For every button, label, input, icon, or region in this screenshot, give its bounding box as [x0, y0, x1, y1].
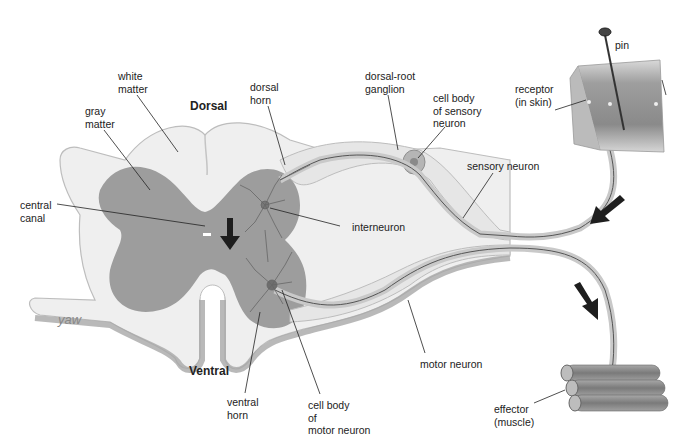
- label-cell-body-motor-neuron: cell body of motor neuron: [308, 399, 370, 437]
- label-ventral: Ventral: [189, 365, 229, 378]
- label-dorsal-root-ganglion: dorsal-root ganglion: [365, 70, 415, 95]
- label-interneuron: interneuron: [352, 221, 405, 234]
- label-gray-matter: gray matter: [85, 105, 115, 130]
- diagram-canvas: [0, 0, 685, 444]
- label-white-matter: white matter: [118, 70, 148, 95]
- label-sensory-neuron: sensory neuron: [467, 160, 539, 173]
- label-pin: pin: [615, 39, 629, 52]
- label-receptor: receptor (in skin): [515, 83, 554, 108]
- label-motor-neuron: motor neuron: [420, 358, 482, 371]
- muscle-effector: [561, 365, 668, 411]
- reflex-arc-diagram: white matter gray matter Dorsal central …: [0, 0, 685, 444]
- skin-block: [570, 60, 664, 152]
- label-central-canal: central canal: [20, 199, 52, 224]
- label-effector: effector (muscle): [494, 403, 534, 428]
- central-canal: [203, 233, 211, 236]
- spinal-cord: [30, 123, 510, 370]
- label-dorsal-horn: dorsal horn: [250, 81, 279, 106]
- signal-arrow-motor: [574, 282, 598, 320]
- artist-signature: yaw: [58, 314, 81, 327]
- label-cell-body-sensory-neuron: cell body of sensory neuron: [433, 92, 481, 130]
- label-ventral-horn: ventral horn: [227, 396, 259, 421]
- label-dorsal: Dorsal: [190, 100, 227, 113]
